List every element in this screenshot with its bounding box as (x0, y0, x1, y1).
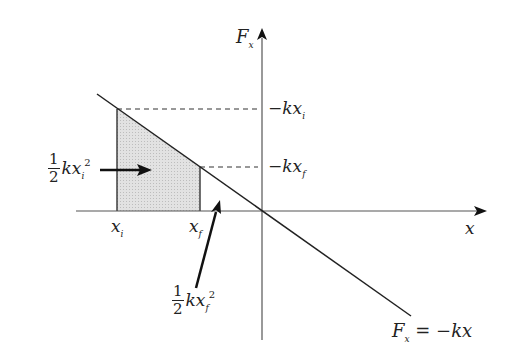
area-i-fraction: 12 (48, 152, 60, 185)
area-f-base: kx (186, 290, 206, 310)
area-i-expr: kxi2 (62, 157, 91, 181)
area-f-expr: kxf2 (186, 289, 216, 313)
tick-xi-sub: i (121, 229, 124, 239)
area-f-den: 2 (173, 301, 183, 317)
area-i-sup: 2 (84, 157, 90, 168)
tick-neg-kxf-base: −kx (268, 156, 302, 176)
area-i-sub: i (81, 171, 84, 181)
tick-neg-kxi-sub: i (302, 111, 305, 121)
area-i-base: kx (62, 158, 82, 178)
area-f-label: 12 kxf2 (172, 284, 215, 317)
function-label: Fx = −kx (392, 322, 472, 344)
area-f-sub: f (205, 303, 208, 313)
area-f-num: 1 (172, 284, 184, 301)
area-f-sup: 2 (209, 289, 215, 300)
tick-xi-base: x (111, 216, 121, 236)
tick-neg-kxf: −kxf (268, 158, 305, 179)
tick-xf-base: x (189, 216, 199, 236)
function-label-lhs: F (392, 320, 405, 341)
tick-neg-kxf-sub: f (302, 169, 305, 179)
tick-xf: xf (189, 218, 202, 239)
area-i-label: 12 kxi2 (48, 152, 91, 185)
tick-xi: xi (111, 218, 123, 239)
shaded-area (117, 109, 200, 211)
y-axis-label-base: F (236, 26, 249, 47)
y-axis-label: Fx (236, 28, 254, 50)
function-label-rhs: = −kx (410, 320, 473, 341)
tick-neg-kxi: −kxi (268, 100, 305, 121)
area-i-num: 1 (48, 152, 60, 169)
x-axis-label: x (465, 220, 475, 237)
y-axis-label-sub: x (249, 40, 254, 50)
tick-neg-kxi-base: −kx (268, 98, 302, 118)
tick-xf-sub: f (199, 229, 202, 239)
area-i-den: 2 (49, 169, 59, 185)
area-f-arrowhead-icon (211, 200, 221, 214)
area-f-fraction: 12 (172, 284, 184, 317)
